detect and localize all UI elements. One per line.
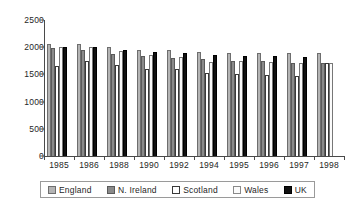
x-axis-tick-mark [74, 156, 75, 160]
x-axis-tick-label: 1996 [259, 160, 279, 170]
bar-group [167, 20, 187, 156]
x-axis-tick-mark [284, 156, 285, 160]
x-axis-tick-mark [194, 156, 195, 160]
x-axis-tick-label: 1997 [289, 160, 309, 170]
x-axis-tick-mark [254, 156, 255, 160]
bar-uk [273, 56, 277, 156]
legend-swatch-wales-icon [233, 186, 241, 194]
x-axis-tick-mark [104, 156, 105, 160]
bar-group [287, 20, 307, 156]
legend-swatch-uk-icon [284, 186, 292, 194]
bar-uk [153, 52, 157, 156]
x-axis-tick-label: 1988 [109, 160, 129, 170]
bar-uk [63, 47, 67, 156]
bar-uk [213, 55, 217, 156]
legend-item-uk[interactable]: UK [284, 185, 307, 195]
legend-item-scotland[interactable]: Scotland [172, 185, 218, 195]
x-axis-tick-mark [44, 156, 45, 160]
legend-label: N. Ireland [118, 185, 157, 195]
x-axis-tick-label: 1998 [319, 160, 339, 170]
legend-swatch-nireland-icon [107, 186, 115, 194]
bar-group [197, 20, 217, 156]
x-axis-tick-mark [164, 156, 165, 160]
x-axis-tick-label: 1990 [139, 160, 159, 170]
x-axis-tick-label: 1995 [229, 160, 249, 170]
x-axis-tick-mark [224, 156, 225, 160]
bar-uk [243, 56, 247, 156]
x-axis-tick-label: 1992 [169, 160, 189, 170]
x-axis-tick-label: 1986 [79, 160, 99, 170]
bar-group [47, 20, 67, 156]
bar-group [317, 20, 333, 156]
legend-item-nireland[interactable]: N. Ireland [107, 185, 157, 195]
legend-item-wales[interactable]: Wales [233, 185, 268, 195]
bar-group [227, 20, 247, 156]
bar-chart: 05001000150020002500 1985198619881990199… [0, 0, 353, 207]
legend-swatch-scotland-icon [172, 186, 180, 194]
bar-group [107, 20, 127, 156]
legend-label: Scotland [183, 185, 218, 195]
x-axis-tick-mark [134, 156, 135, 160]
legend-item-england[interactable]: England [48, 185, 92, 195]
bar-group [257, 20, 277, 156]
x-axis-tick-mark [344, 156, 345, 160]
bar-uk [303, 57, 307, 156]
bar-uk [123, 50, 127, 156]
x-axis-tick-label: 1985 [49, 160, 69, 170]
x-axis-tick-label: 1994 [199, 160, 219, 170]
bar-uk [183, 53, 187, 156]
legend-label: England [59, 185, 92, 195]
plot-area [44, 20, 344, 156]
legend-swatch-england-icon [48, 186, 56, 194]
legend-label: Wales [244, 185, 268, 195]
x-axis-tick-mark [314, 156, 315, 160]
bar-uk [93, 47, 97, 156]
bar-group [137, 20, 157, 156]
bar-wales [329, 63, 333, 156]
bar-group [77, 20, 97, 156]
chart-legend: EnglandN. IrelandScotlandWalesUK [40, 181, 315, 198]
legend-label: UK [295, 185, 307, 195]
